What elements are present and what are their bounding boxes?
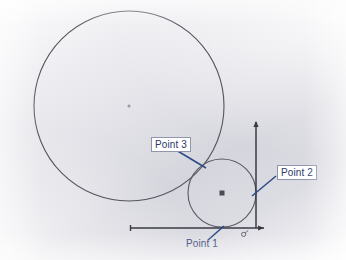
small-circle-center-marker <box>220 191 225 196</box>
callout-point-3[interactable]: Point 3 <box>151 137 191 152</box>
geometry-drawing <box>0 0 346 260</box>
diagram-canvas: Point 3 Point 2 Point 1 <box>0 0 346 260</box>
large-circle-center-dot <box>128 105 131 108</box>
origin-dimension-glyph <box>242 230 249 236</box>
callout-point-2[interactable]: Point 2 <box>277 165 317 180</box>
callout-point-1[interactable]: Point 1 <box>186 238 218 249</box>
vertical-axis-arrowhead <box>253 121 258 127</box>
leader-line-point3 <box>176 150 206 168</box>
horizontal-axis-arrowhead <box>258 225 264 230</box>
